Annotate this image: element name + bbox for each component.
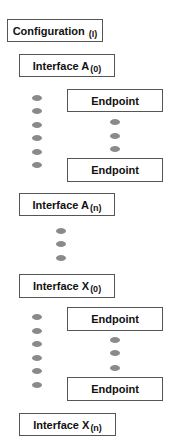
endpoint-label: Endpoint [91, 313, 139, 325]
interface-an-box: Interface A(n) [19, 193, 115, 216]
ellipsis-dot [110, 133, 120, 139]
interface-a0-box: Interface A(0) [19, 54, 115, 77]
ellipsis-dot [32, 314, 42, 320]
ellipsis-dot [110, 146, 120, 152]
interface-subscript: (0) [90, 64, 101, 74]
interface-xn-box: Interface X(n) [19, 413, 116, 436]
endpoint-box: Endpoint [67, 158, 163, 182]
interface-subscript: (0) [90, 284, 101, 294]
interface-label: Interface A [33, 199, 89, 211]
ellipsis-dot [110, 119, 120, 125]
interface-subscript: (n) [90, 423, 102, 433]
interface-x0-box: Interface X(0) [19, 274, 115, 298]
ellipsis-dot [32, 95, 42, 101]
ellipsis-dot [32, 382, 42, 388]
ellipsis-dot [32, 328, 42, 334]
interface-label: Interface A [33, 60, 89, 72]
ellipsis-dot [110, 337, 120, 343]
ellipsis-dot [110, 350, 120, 356]
ellipsis-dot [56, 228, 66, 234]
configuration-box: Configuration (I) [7, 19, 103, 42]
ellipsis-dot [32, 135, 42, 141]
interface-label: Interface X [33, 280, 89, 292]
endpoint-label: Endpoint [91, 95, 139, 107]
endpoint-box: Endpoint [67, 377, 163, 401]
ellipsis-dot [32, 355, 42, 361]
interface-subscript: (n) [90, 203, 102, 213]
endpoint-label: Endpoint [91, 164, 139, 176]
ellipsis-dot [56, 241, 66, 247]
interface-label: Interface X [33, 419, 89, 431]
ellipsis-dot [32, 122, 42, 128]
endpoint-box: Endpoint [67, 307, 163, 331]
ellipsis-dot [32, 108, 42, 114]
ellipsis-dot [110, 365, 120, 371]
ellipsis-dot [32, 162, 42, 168]
endpoint-box: Endpoint [67, 89, 163, 112]
ellipsis-dot [56, 255, 66, 261]
ellipsis-dot [32, 368, 42, 374]
endpoint-label: Endpoint [91, 383, 139, 395]
configuration-label: Configuration [13, 25, 85, 37]
configuration-subscript: (I) [89, 29, 98, 39]
ellipsis-dot [32, 341, 42, 347]
ellipsis-dot [32, 149, 42, 155]
